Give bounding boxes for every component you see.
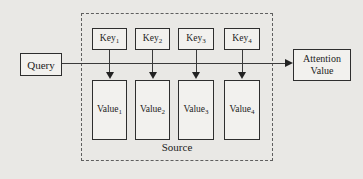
key1-box: Key1: [92, 28, 127, 50]
arrowhead-down-icon: [149, 72, 157, 79]
key3-to-value3-line: [196, 50, 197, 74]
key2-box: Key2: [135, 28, 170, 50]
key2-label: Key2: [143, 33, 162, 45]
value2-box: Value2: [135, 80, 170, 140]
arrowhead-right-icon: [285, 59, 293, 67]
arrowhead-down-icon: [106, 72, 114, 79]
attention-mechanism-diagram: Source Query Attention Value Key1 Key2 K…: [0, 0, 363, 179]
arrowhead-down-icon: [192, 72, 200, 79]
query-to-attention-line: [62, 63, 286, 64]
value3-label: Value3: [183, 104, 208, 116]
value1-box: Value1: [92, 80, 127, 140]
key4-box: Key4: [224, 28, 260, 50]
key2-to-value2-line: [152, 50, 153, 74]
value4-label: Value4: [229, 104, 254, 116]
value2-label: Value2: [140, 104, 165, 116]
attention-value-label-line2: Value: [311, 65, 334, 78]
value4-box: Value4: [224, 80, 260, 140]
value3-box: Value3: [178, 80, 214, 140]
value1-label: Value1: [97, 104, 122, 116]
arrowhead-down-icon: [238, 72, 246, 79]
key2-subscript: 2: [159, 37, 163, 45]
value3-subscript: 3: [205, 108, 209, 116]
key3-label: Key3: [186, 33, 205, 45]
key4-to-value4-line: [242, 50, 243, 74]
source-label: Source: [81, 141, 273, 153]
key4-label: Key4: [232, 33, 251, 45]
key4-subscript: 4: [248, 37, 252, 45]
query-box: Query: [20, 53, 62, 76]
key1-label: Key1: [100, 33, 119, 45]
value4-subscript: 4: [251, 108, 255, 116]
key1-subscript: 1: [116, 37, 120, 45]
value1-subscript: 1: [119, 108, 123, 116]
query-label: Query: [27, 59, 55, 71]
attention-value-box: Attention Value: [293, 49, 351, 81]
key1-to-value1-line: [109, 50, 110, 74]
attention-value-label-line1: Attention: [303, 53, 341, 66]
key3-box: Key3: [178, 28, 214, 50]
key3-subscript: 3: [202, 37, 206, 45]
value2-subscript: 2: [162, 108, 166, 116]
